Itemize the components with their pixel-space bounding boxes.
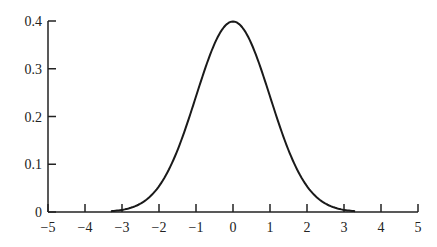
- y-tick-label: 0.4: [25, 14, 43, 29]
- y-tick-label: 0: [35, 205, 42, 220]
- x-tick-label: 2: [304, 220, 311, 235]
- y-tick-label: 0.3: [25, 62, 43, 77]
- density-curve: [111, 22, 355, 212]
- x-tick-label: 1: [267, 220, 274, 235]
- x-tick-label: 4: [378, 220, 385, 235]
- x-tick-label: −3: [115, 220, 130, 235]
- x-tick-label: −1: [189, 220, 204, 235]
- y-tick-label: 0.2: [25, 110, 43, 125]
- x-tick-label: −2: [152, 220, 167, 235]
- y-tick-label: 0.1: [25, 157, 43, 172]
- x-axis: −5−4−3−2−1012345: [41, 204, 422, 235]
- x-tick-label: −5: [41, 220, 56, 235]
- x-tick-label: 3: [341, 220, 348, 235]
- normal-density-chart: 00.10.20.30.4 −5−4−3−2−1012345: [0, 0, 437, 247]
- y-axis: 00.10.20.30.4: [25, 14, 57, 220]
- x-tick-label: 0: [230, 220, 237, 235]
- x-tick-label: −4: [78, 220, 93, 235]
- x-tick-label: 5: [415, 220, 422, 235]
